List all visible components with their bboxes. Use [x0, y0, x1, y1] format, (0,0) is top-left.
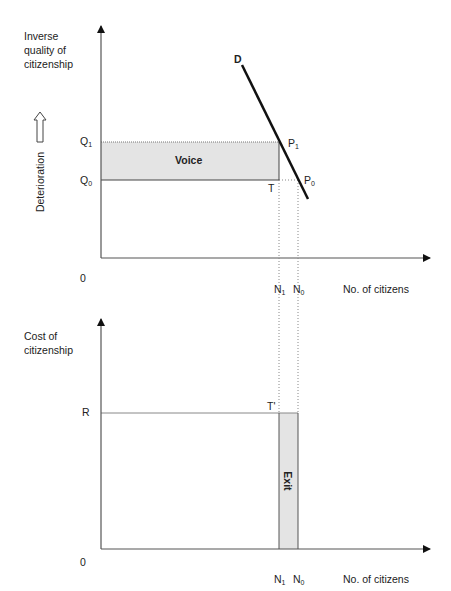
t-prime-label: T': [267, 400, 275, 413]
top-n0-subscript: 0: [301, 289, 305, 296]
bottom-n1-letter: N: [274, 573, 282, 585]
hollow-up-arrow-icon: [34, 112, 46, 142]
p1-letter: P: [288, 137, 295, 149]
p1-label: P1: [288, 137, 299, 153]
q1-letter: Q: [80, 135, 88, 147]
top-n1-letter: N: [274, 283, 282, 295]
bottom-origin-label: 0: [80, 556, 86, 569]
bottom-n1-label: N1: [274, 573, 286, 589]
bottom-x-axis-title: No. of citizens: [343, 573, 409, 586]
exit-label: Exit: [282, 463, 294, 499]
bottom-n0-label: N0: [293, 573, 305, 589]
p0-subscript: 0: [311, 180, 315, 187]
p1-subscript: 1: [295, 143, 299, 150]
top-origin-label: 0: [80, 272, 86, 285]
r-label: R: [82, 406, 90, 419]
bottom-panel: [101, 319, 430, 549]
bottom-n0-letter: N: [293, 573, 301, 585]
q1-subscript: 1: [88, 141, 92, 148]
bottom-n0-subscript: 0: [301, 579, 305, 586]
top-n1-label: N1: [274, 283, 286, 299]
demand-curve-label: D: [234, 53, 242, 66]
top-n1-subscript: 1: [282, 289, 286, 296]
deterioration-label: Deterioration: [34, 146, 46, 218]
q1-label: Q1: [80, 135, 92, 151]
top-panel: [101, 26, 430, 258]
top-y-axis-title: Inverse quality of citizenship: [24, 29, 73, 71]
top-n0-letter: N: [293, 283, 301, 295]
bottom-y-axis-title: Cost of citizenship: [24, 329, 73, 357]
q0-letter: Q: [80, 174, 88, 186]
bottom-n1-subscript: 1: [282, 579, 286, 586]
t-label: T: [268, 182, 274, 195]
q0-subscript: 0: [88, 180, 92, 187]
q0-label: Q0: [80, 174, 92, 190]
p0-letter: P: [304, 174, 311, 186]
voice-label: Voice: [175, 154, 202, 167]
top-n0-label: N0: [293, 283, 305, 299]
p0-label: P0: [304, 174, 315, 190]
top-x-axis-title: No. of citizens: [343, 283, 409, 296]
